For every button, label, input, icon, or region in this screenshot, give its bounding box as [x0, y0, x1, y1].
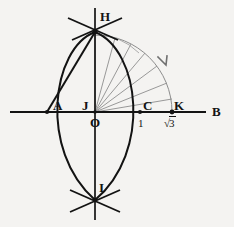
dot-A	[45, 110, 49, 114]
rotation-arrow-icon	[158, 56, 167, 65]
point-label-H: H	[100, 10, 110, 23]
dot-O	[93, 110, 97, 114]
axis-value-one: 1	[138, 118, 144, 129]
dot-H	[93, 30, 98, 35]
ray-75	[95, 38, 115, 112]
point-label-J: J	[82, 99, 89, 112]
point-label-K: K	[174, 99, 184, 112]
geometry-figure: H A J O C K B I 1 √3	[0, 0, 234, 227]
ray-50	[95, 53, 145, 112]
radical-symbol: √3	[164, 118, 176, 129]
point-label-C: C	[143, 99, 152, 112]
radical-operand: 3	[169, 116, 176, 129]
dot-I	[93, 198, 97, 202]
right-big-arc	[95, 32, 133, 200]
point-label-I: I	[99, 181, 104, 194]
dot-C	[138, 110, 142, 114]
point-label-A: A	[53, 99, 62, 112]
figure-canvas	[0, 0, 234, 227]
axis-value-sqrt3: √3	[164, 118, 176, 129]
point-label-O: O	[90, 116, 100, 129]
point-dots-group	[45, 30, 175, 203]
ray-62	[95, 44, 131, 112]
point-label-B: B	[212, 105, 221, 118]
tick-h-right	[72, 18, 122, 40]
